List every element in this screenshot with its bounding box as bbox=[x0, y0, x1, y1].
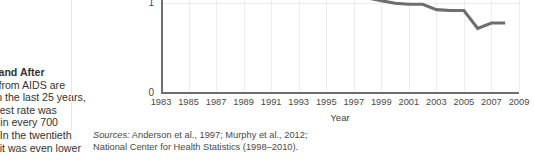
sources-text-1: Anderson et al., 1997; Murphy et al., 20… bbox=[130, 130, 308, 140]
sources-line-2: National Center for Health Statistics (1… bbox=[93, 142, 308, 154]
x-tick-label: 2009 bbox=[502, 97, 534, 107]
caption-line: people. In the twentieth bbox=[0, 129, 70, 142]
caption-line-heading: Before and After bbox=[0, 66, 70, 79]
data-series-line bbox=[161, 0, 519, 93]
y-tick-label: 1 bbox=[130, 0, 154, 8]
caption-line: the highest rate was bbox=[0, 104, 70, 117]
sources-note: Sources: Anderson et al., 1997; Murphy e… bbox=[93, 130, 308, 153]
gridline-vertical bbox=[519, 0, 520, 92]
caption-line: century it was even lower bbox=[0, 142, 70, 155]
caption-line: about 1 in every 700 bbox=[0, 116, 70, 129]
caption-line: Deaths from AIDS are bbox=[0, 79, 70, 92]
column-divider bbox=[71, 0, 72, 130]
caption-line: down. In the last 25 years, bbox=[0, 91, 70, 104]
sources-label: Sources: bbox=[93, 130, 130, 140]
sources-line-1: Sources: Anderson et al., 1997; Murphy e… bbox=[93, 130, 308, 142]
figure-caption: Before and After Deaths from AIDS are do… bbox=[0, 66, 70, 154]
x-axis-title: Year bbox=[161, 112, 519, 123]
plot-area: 01 1983198519871989199119931995199719992… bbox=[161, 0, 519, 93]
